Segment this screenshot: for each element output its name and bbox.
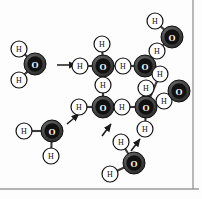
- hydrogen-atom: H: [113, 134, 129, 150]
- water-network-diagram: OHHOHHHHOHHOHOHHOHHHOOHHOHH: [0, 0, 202, 199]
- atom-label: H: [16, 76, 22, 85]
- hydrogen-atom: H: [102, 166, 118, 182]
- hydrogen-atom: H: [115, 58, 131, 74]
- atom-label: H: [48, 152, 54, 161]
- atom-label: O: [175, 87, 182, 97]
- atom-label: H: [99, 40, 105, 49]
- atom-label: O: [130, 159, 137, 169]
- hydrogen-atom: H: [94, 36, 110, 52]
- hydrogen-atom: H: [114, 99, 130, 115]
- oxygen-atom: O: [135, 96, 157, 118]
- hydrogen-atom: H: [147, 13, 163, 29]
- hydrogen-atom: H: [71, 99, 87, 115]
- atom-label: H: [77, 62, 83, 71]
- atom-label: O: [142, 103, 149, 113]
- oxygen-atom: O: [92, 55, 114, 77]
- atom-label: H: [16, 45, 22, 54]
- atom-label: H: [154, 47, 160, 56]
- atom-label: O: [31, 60, 38, 70]
- arrow-from-bottom-b-icon: [131, 139, 140, 151]
- hydrogen-atom: H: [11, 41, 27, 57]
- hydrogen-atom: H: [152, 66, 168, 82]
- atom-label: H: [119, 103, 125, 112]
- atom-layer: OHHOHHHHOHHOHOHHOHHHOOHHOHH: [11, 13, 190, 182]
- arrow-from-bottom-a-icon: [102, 124, 111, 136]
- atom-label: O: [168, 33, 175, 43]
- arrow-from-bot-left-icon: [67, 114, 79, 124]
- hydrogen-atom: H: [11, 72, 27, 88]
- atom-label: H: [118, 138, 124, 147]
- oxygen-atom: O: [41, 120, 63, 142]
- hydrogen-atom: H: [72, 58, 88, 74]
- oxygen-atom: O: [92, 96, 114, 118]
- atom-label: H: [161, 97, 167, 106]
- atom-label: O: [99, 103, 106, 113]
- oxygen-atom: O: [161, 26, 183, 48]
- atom-label: H: [157, 70, 163, 79]
- oxygen-atom: O: [168, 80, 190, 102]
- atom-label: H: [21, 127, 27, 136]
- atom-label: O: [48, 127, 55, 137]
- hydrogen-atom: H: [43, 148, 59, 164]
- atom-label: H: [143, 84, 149, 93]
- molecular-diagram-canvas: OHHOHHHHOHHOHOHHOHHHOOHHOHH: [0, 0, 202, 199]
- atom-label: H: [76, 103, 82, 112]
- hydrogen-atom: H: [95, 77, 111, 93]
- atom-label: H: [120, 62, 126, 71]
- hydrogen-atom: H: [138, 80, 154, 96]
- atom-label: H: [152, 17, 158, 26]
- oxygen-atom: O: [24, 53, 46, 75]
- hydrogen-atom: H: [137, 121, 153, 137]
- atom-label: O: [141, 62, 148, 72]
- atom-label: H: [107, 170, 113, 179]
- oxygen-atom: O: [123, 152, 145, 174]
- atom-label: H: [142, 125, 148, 134]
- hydrogen-atom: H: [149, 43, 165, 59]
- atom-label: O: [99, 62, 106, 72]
- hydrogen-atom: H: [16, 123, 32, 139]
- atom-label: H: [100, 81, 106, 90]
